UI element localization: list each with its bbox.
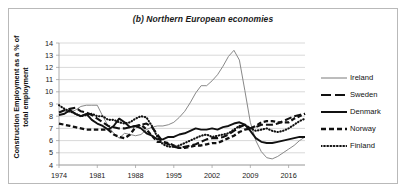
svg-text:13: 13 <box>45 51 53 60</box>
svg-text:9: 9 <box>49 100 53 109</box>
svg-text:4: 4 <box>49 161 53 170</box>
svg-text:6: 6 <box>49 136 53 145</box>
chart-container: (b) Northern European economies Construc… <box>8 8 398 184</box>
svg-text:10: 10 <box>45 87 53 96</box>
svg-text:2016: 2016 <box>280 171 296 180</box>
legend-key-denmark <box>321 107 347 117</box>
svg-text:5: 5 <box>49 148 53 157</box>
x-axis-ticks: 1974198119881995200220092016 <box>51 171 297 180</box>
svg-text:14: 14 <box>45 39 53 48</box>
legend-item-denmark[interactable]: Denmark <box>321 103 399 120</box>
svg-text:2002: 2002 <box>204 171 220 180</box>
legend-item-ireland[interactable]: Ireland <box>321 69 399 86</box>
legend-key-sweden <box>321 90 347 100</box>
svg-text:1974: 1974 <box>51 171 67 180</box>
legend-item-finland[interactable]: Finland <box>321 137 399 154</box>
legend-label-norway: Norway <box>350 124 376 133</box>
legend-key-ireland <box>321 73 347 83</box>
svg-text:7: 7 <box>49 124 53 133</box>
legend-item-sweden[interactable]: Sweden <box>321 86 399 103</box>
y-axis-ticks: 1413121110987654 <box>45 39 53 170</box>
svg-text:1995: 1995 <box>166 171 182 180</box>
svg-text:12: 12 <box>45 63 53 72</box>
svg-text:8: 8 <box>49 112 53 121</box>
svg-text:11: 11 <box>45 75 53 84</box>
legend-label-ireland: Ireland <box>350 73 373 82</box>
legend-item-norway[interactable]: Norway <box>321 120 399 137</box>
svg-text:2009: 2009 <box>242 171 258 180</box>
chart-legend: Ireland Sweden Denmark Norway Finland <box>321 69 399 154</box>
data-series-group <box>59 50 305 159</box>
legend-label-sweden: Sweden <box>350 90 377 99</box>
svg-text:1981: 1981 <box>89 171 105 180</box>
legend-key-norway <box>321 124 347 134</box>
legend-label-denmark: Denmark <box>350 107 381 116</box>
legend-label-finland: Finland <box>350 141 375 150</box>
svg-text:1988: 1988 <box>127 171 143 180</box>
legend-key-finland <box>321 141 347 151</box>
